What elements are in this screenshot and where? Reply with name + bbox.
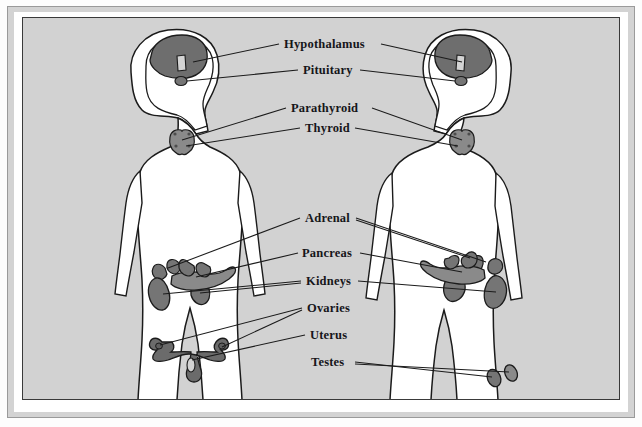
label-thyroid: Thyroid xyxy=(305,121,350,136)
parathyroid-female-2 xyxy=(187,132,190,135)
thyroid-male xyxy=(450,130,475,155)
label-ovaries: Ovaries xyxy=(307,301,350,316)
adrenal-female-right xyxy=(167,260,180,274)
label-parathyroid: Parathyroid xyxy=(291,101,358,116)
label-uterus: Uterus xyxy=(310,328,347,343)
ovary-female-left xyxy=(156,343,163,349)
diagram-stage: Hypothalamus Pituitary Parathyroid Thyro… xyxy=(0,0,642,427)
adrenal-male-right xyxy=(488,259,503,274)
hypothalamus-female xyxy=(177,55,186,71)
label-adrenal: Adrenal xyxy=(305,211,350,226)
male-figure xyxy=(366,30,522,400)
hypothalamus-male xyxy=(456,55,465,71)
parathyroid-male-1 xyxy=(453,132,456,135)
label-pituitary: Pituitary xyxy=(303,63,353,78)
label-kidneys: Kidneys xyxy=(306,274,351,289)
male-left-arm xyxy=(366,173,393,300)
female-figure xyxy=(115,30,265,400)
parathyroid-male-4 xyxy=(467,144,470,147)
testis-right xyxy=(502,363,519,383)
pituitary-female xyxy=(175,77,187,86)
parathyroid-female-3 xyxy=(174,144,177,147)
parathyroid-female-1 xyxy=(173,132,176,135)
thyroid-female xyxy=(170,130,195,155)
label-hypothalamus: Hypothalamus xyxy=(284,37,365,52)
label-pancreas: Pancreas xyxy=(302,246,352,261)
label-testes: Testes xyxy=(311,355,344,370)
pituitary-male xyxy=(455,77,467,86)
parathyroid-male-2 xyxy=(467,132,470,135)
